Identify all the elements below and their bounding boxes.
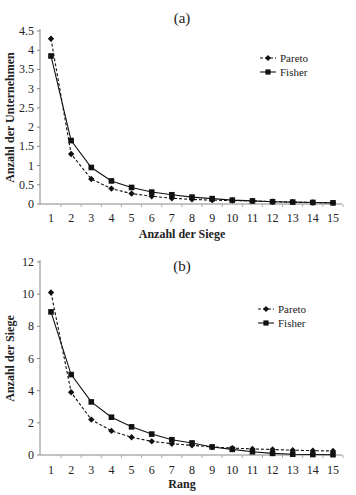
y-tick-label: 2: [28, 416, 34, 430]
square-marker: [209, 444, 215, 450]
legend-diamond-icon: [265, 55, 271, 61]
diamond-marker: [128, 434, 134, 440]
series-line-fisher: [51, 56, 333, 203]
legend-label-fisher: Fisher: [278, 317, 306, 329]
chart-title: (a): [174, 10, 191, 27]
legend-label-fisher: Fisher: [280, 66, 308, 78]
x-tick-label: 2: [68, 211, 74, 225]
square-marker: [48, 53, 54, 59]
x-tick-label: 3: [88, 211, 94, 225]
diamond-marker: [108, 185, 114, 191]
x-tick-label: 14: [307, 211, 319, 225]
x-tick-label: 14: [307, 463, 319, 477]
legend-label-pareto: Pareto: [278, 303, 307, 315]
x-tick-label: 6: [149, 211, 155, 225]
square-marker: [48, 309, 54, 315]
diamond-marker: [108, 428, 114, 434]
x-tick-label: 11: [247, 463, 259, 477]
y-tick-label: 8: [28, 319, 34, 333]
y-tick-label: 6: [28, 352, 34, 366]
square-marker: [129, 185, 135, 191]
y-tick-label: 1.5: [19, 139, 34, 153]
y-tick-label: 2.5: [19, 101, 34, 115]
square-marker: [270, 199, 276, 205]
x-tick-label: 8: [189, 463, 195, 477]
legend-square-icon: [263, 320, 268, 325]
x-tick-label: 13: [287, 211, 299, 225]
chart-panel-b: (b)024681012123456789101112131415RangAnz…: [3, 255, 343, 491]
y-tick-label: 0: [28, 448, 34, 462]
square-marker: [250, 198, 256, 204]
x-tick-label: 15: [327, 463, 339, 477]
square-marker: [290, 451, 296, 457]
square-marker: [209, 196, 215, 202]
y-tick-label: 4: [28, 43, 34, 57]
x-tick-label: 10: [226, 463, 238, 477]
x-tick-label: 2: [68, 463, 74, 477]
legend-diamond-icon: [263, 306, 269, 312]
x-tick-label: 15: [327, 211, 339, 225]
diamond-marker: [48, 35, 54, 41]
square-marker: [88, 399, 94, 405]
chart-title: (b): [173, 258, 191, 275]
x-tick-label: 7: [169, 463, 175, 477]
square-marker: [330, 200, 336, 206]
chart-panel-a: (a)00.511.522.533.544.512345678910111213…: [3, 10, 343, 241]
square-marker: [330, 452, 336, 458]
diamond-marker: [149, 438, 155, 444]
legend: ParetoFisher: [260, 52, 309, 78]
x-tick-label: 9: [209, 463, 215, 477]
square-marker: [310, 452, 316, 458]
square-marker: [169, 192, 175, 198]
x-tick-label: 1: [48, 211, 54, 225]
square-marker: [109, 414, 115, 420]
x-tick-label: 1: [48, 463, 54, 477]
y-axis-label: Anzahl der Unternehmen: [3, 52, 17, 183]
y-tick-label: 4.5: [19, 24, 34, 38]
x-tick-label: 3: [88, 463, 94, 477]
x-tick-label: 6: [149, 463, 155, 477]
square-marker: [68, 138, 74, 144]
y-tick-label: 10: [22, 287, 34, 301]
diamond-marker: [128, 190, 134, 196]
x-tick-label: 9: [209, 211, 215, 225]
square-marker: [229, 197, 235, 203]
y-tick-label: 4: [28, 384, 34, 398]
y-tick-label: 3: [28, 82, 34, 96]
x-tick-label: 12: [267, 463, 279, 477]
legend-label-pareto: Pareto: [280, 52, 309, 64]
square-marker: [149, 189, 155, 195]
x-tick-label: 5: [129, 463, 135, 477]
x-tick-label: 12: [267, 211, 279, 225]
square-marker: [270, 451, 276, 457]
x-tick-label: 5: [129, 211, 135, 225]
x-tick-label: 11: [247, 211, 259, 225]
square-marker: [229, 447, 235, 453]
square-marker: [189, 194, 195, 200]
square-marker: [310, 200, 316, 206]
x-tick-label: 8: [189, 211, 195, 225]
y-tick-label: 2: [28, 120, 34, 134]
x-axis-label: Anzahl der Siege: [139, 227, 226, 241]
figure: (a)00.511.522.533.544.512345678910111213…: [0, 0, 356, 495]
diamond-marker: [48, 289, 54, 295]
y-tick-label: 0.5: [19, 178, 34, 192]
x-tick-label: 13: [287, 463, 299, 477]
legend-square-icon: [265, 69, 270, 74]
x-tick-label: 7: [169, 211, 175, 225]
square-marker: [109, 178, 115, 184]
square-marker: [250, 449, 256, 455]
square-marker: [169, 437, 175, 443]
y-tick-label: 0: [28, 197, 34, 211]
square-marker: [129, 424, 135, 430]
y-tick-label: 12: [22, 255, 34, 269]
y-tick-label: 3.5: [19, 62, 34, 76]
square-marker: [88, 165, 94, 171]
legend: ParetoFisher: [258, 303, 307, 329]
y-tick-label: 1: [28, 159, 34, 173]
x-tick-label: 4: [108, 463, 114, 477]
x-axis-label: Rang: [168, 477, 195, 491]
x-tick-label: 4: [108, 211, 114, 225]
diamond-marker: [68, 389, 74, 395]
square-marker: [290, 199, 296, 205]
